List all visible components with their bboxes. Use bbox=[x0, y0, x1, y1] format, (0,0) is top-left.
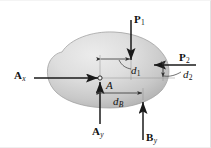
label-point-A: A bbox=[106, 80, 113, 91]
rigid-body-blob bbox=[47, 32, 169, 108]
free-body-diagram-figure: P1 P2 Ax Ay By A d1 d2 dB bbox=[0, 0, 211, 148]
label-reaction-Ax: Ax bbox=[14, 70, 26, 82]
label-dimension-d2: d2 bbox=[183, 69, 193, 81]
label-force-P1: P1 bbox=[134, 14, 145, 26]
diagram-canvas bbox=[0, 0, 211, 148]
label-force-P2: P2 bbox=[179, 52, 190, 64]
label-reaction-By: By bbox=[146, 132, 157, 144]
label-dimension-d1: d1 bbox=[131, 65, 141, 77]
label-reaction-Ay: Ay bbox=[92, 126, 104, 138]
label-dimension-dB: dB bbox=[113, 96, 123, 108]
point-A-marker bbox=[98, 76, 102, 80]
